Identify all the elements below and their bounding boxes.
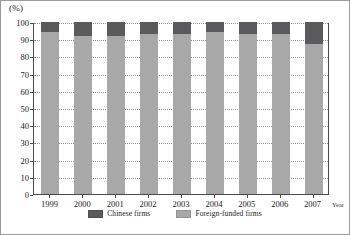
- bar-segment[interactable]: [41, 22, 59, 32]
- bar-segment[interactable]: [239, 22, 257, 34]
- y-axis-tick-labels: 0102030405060708090100: [1, 23, 33, 195]
- bar-group[interactable]: [41, 23, 59, 194]
- legend-label: Foreign-funded firms: [195, 209, 261, 218]
- x-axis-tick-label: 2001: [107, 200, 124, 209]
- y-axis-tick-label: 30: [21, 139, 30, 147]
- y-axis-tick-label: 60: [21, 88, 30, 96]
- x-axis-tick-label: 2002: [140, 200, 157, 209]
- bar-group[interactable]: [239, 23, 257, 194]
- x-axis-tick-mark: [181, 195, 182, 198]
- chart-legend: Chinese firmsForeign-funded firms: [1, 209, 349, 218]
- bar-segment[interactable]: [74, 22, 92, 36]
- bar-group[interactable]: [272, 23, 290, 194]
- y-axis-tick-label: 20: [21, 157, 30, 165]
- y-axis-tick-label: 90: [21, 36, 30, 44]
- x-axis-tick-label: 2007: [304, 200, 321, 209]
- bar-group[interactable]: [74, 23, 92, 194]
- y-axis-tick-label: 70: [21, 71, 30, 79]
- legend-label: Chinese firms: [107, 209, 150, 218]
- bar-segment[interactable]: [140, 22, 158, 34]
- bar-segment[interactable]: [41, 32, 59, 194]
- y-axis-tick-label: 100: [16, 19, 29, 27]
- x-axis-tick-label: 2005: [238, 200, 255, 209]
- bar-segment[interactable]: [272, 22, 290, 34]
- chart-figure: (%) 0102030405060708090100 1999200020012…: [0, 0, 350, 235]
- bar-group[interactable]: [305, 23, 323, 194]
- x-axis-tick-mark: [82, 195, 83, 198]
- bar-segment[interactable]: [305, 44, 323, 194]
- x-axis-tick-mark: [280, 195, 281, 198]
- bar-segment[interactable]: [140, 34, 158, 194]
- bar-segment[interactable]: [305, 22, 323, 44]
- x-axis-tick-mark: [115, 195, 116, 198]
- y-axis-tick-label: 40: [21, 122, 30, 130]
- x-axis-tick-label: 2006: [271, 200, 288, 209]
- bar-segment[interactable]: [206, 22, 224, 32]
- bar-segment[interactable]: [206, 32, 224, 194]
- bar-segment[interactable]: [173, 22, 191, 34]
- x-axis-tick-mark: [148, 195, 149, 198]
- bar-group[interactable]: [173, 23, 191, 194]
- y-axis-tick-label: 10: [21, 174, 30, 182]
- x-axis-tick-label: 2003: [173, 200, 190, 209]
- y-axis-tick-label: 0: [25, 191, 29, 199]
- bar-group[interactable]: [140, 23, 158, 194]
- x-axis-tick-mark: [313, 195, 314, 198]
- plot-area: [33, 23, 329, 195]
- bar-group[interactable]: [107, 23, 125, 194]
- bar-series-container: [34, 23, 328, 194]
- y-axis-tick-label: 80: [21, 53, 30, 61]
- bar-segment[interactable]: [272, 34, 290, 194]
- x-axis-tick-mark: [247, 195, 248, 198]
- bar-segment[interactable]: [173, 34, 191, 194]
- legend-item[interactable]: Foreign-funded firms: [176, 209, 261, 218]
- x-axis-tick-label: 2000: [74, 200, 91, 209]
- x-axis-tick-mark: [49, 195, 50, 198]
- x-axis-tick-label: 2004: [205, 200, 222, 209]
- bar-segment[interactable]: [107, 36, 125, 194]
- x-axis-tick-mark: [214, 195, 215, 198]
- x-axis-title: Year: [332, 201, 344, 209]
- bar-segment[interactable]: [107, 22, 125, 36]
- y-axis-tick-label: 50: [21, 105, 30, 113]
- bar-segment[interactable]: [239, 34, 257, 194]
- legend-item[interactable]: Chinese firms: [88, 209, 150, 218]
- bar-group[interactable]: [206, 23, 224, 194]
- legend-swatch-icon: [176, 210, 191, 218]
- legend-swatch-icon: [88, 210, 103, 218]
- y-axis-unit-label: (%): [9, 3, 23, 14]
- bar-segment[interactable]: [74, 36, 92, 194]
- x-axis-tick-label: 1999: [41, 200, 58, 209]
